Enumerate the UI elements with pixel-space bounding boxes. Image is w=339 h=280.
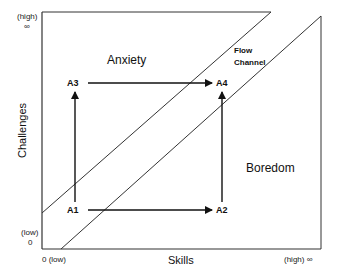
x-axis-low-label: 0 (low) xyxy=(42,256,66,264)
x-axis-title: Skills xyxy=(168,255,194,266)
y-axis-infinity-label: ∞ xyxy=(24,23,30,31)
y-axis-title: Challenges xyxy=(17,101,28,161)
diagram-canvas xyxy=(0,0,339,280)
flow-channel-label-line2: Channel xyxy=(234,57,266,69)
y-axis-high-label: (high) xyxy=(17,13,37,21)
y-axis-low-label: (low) xyxy=(21,229,38,237)
node-a4-label: A4 xyxy=(216,79,228,88)
region-anxiety-label: Anxiety xyxy=(107,54,146,66)
node-a2-label: A2 xyxy=(216,206,228,215)
node-a1-label: A1 xyxy=(67,206,79,215)
flow-channel-label-line1: Flow xyxy=(234,45,252,57)
flow-channel-upper-boundary xyxy=(42,12,271,213)
region-boredom-label: Boredom xyxy=(246,162,295,174)
flow-channel-lower-boundary xyxy=(61,16,321,249)
y-axis-zero-label: 0 xyxy=(28,239,32,247)
x-axis-high-label: (high) ∞ xyxy=(284,256,312,264)
node-a3-label: A3 xyxy=(67,79,79,88)
